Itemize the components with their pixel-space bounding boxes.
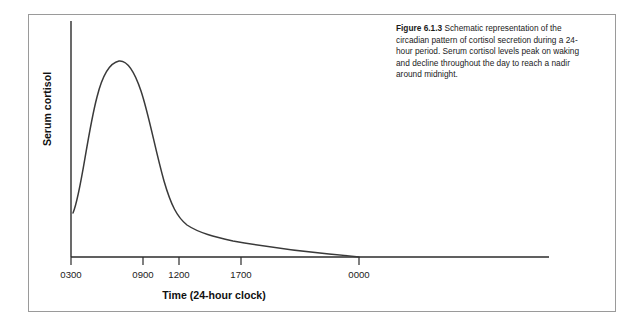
x-tick-label-1700: 1700: [230, 269, 251, 280]
x-tick-label-0300: 0300: [60, 269, 81, 280]
chart-plot-area: 0300 0900 1200 1700 0000 Time (24-hour c…: [29, 15, 617, 313]
x-tick-label-0000: 0000: [348, 269, 369, 280]
x-axis-title: Time (24-hour clock): [29, 289, 399, 301]
figure-frame: Figure 6.1.3 Schematic representation of…: [28, 14, 616, 312]
x-axis-ticks: [71, 257, 359, 265]
x-tick-label-0900: 0900: [132, 269, 153, 280]
cortisol-curve-svg: [29, 15, 617, 313]
x-tick-label-1200: 1200: [168, 269, 189, 280]
cortisol-curve-path: [73, 61, 359, 257]
y-axis-title: Serum cortisol: [41, 44, 53, 174]
